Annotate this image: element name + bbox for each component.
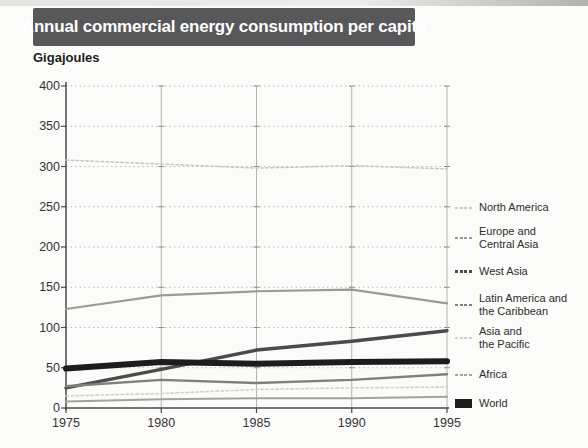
legend-item-europe-and-central-asia: Europe and Central Asia — [455, 225, 587, 251]
y-axis-tick-label-250: 250 — [24, 200, 60, 214]
legend-label-europe-and-central-asia: Europe and Central Asia — [479, 225, 538, 251]
x-axis-tick-label-1975: 1975 — [44, 416, 88, 430]
figure-page: Annual commercial energy consumption per… — [0, 0, 588, 448]
legend-item-world: World — [455, 397, 587, 410]
y-axis-tick-label-150: 150 — [24, 280, 60, 294]
y-axis-tick-label-400: 400 — [24, 79, 60, 93]
x-axis-tick-label-1980: 1980 — [139, 416, 183, 430]
legend-item-north-america: North America — [455, 201, 587, 214]
x-axis-tick-label-1985: 1985 — [235, 416, 279, 430]
legend-item-africa: Africa — [455, 368, 587, 381]
legend-swatch-west-asia — [455, 270, 472, 273]
legend-swatch-north-america — [455, 207, 472, 209]
legend-label-west-asia: West Asia — [479, 265, 528, 278]
legend-item-west-asia: West Asia — [455, 265, 587, 278]
legend-swatch-world — [455, 399, 472, 408]
legend-label-north-america: North America — [479, 201, 549, 214]
y-axis-tick-label-100: 100 — [24, 321, 60, 335]
y-axis-tick-label-300: 300 — [24, 160, 60, 174]
legend-label-africa: Africa — [479, 368, 507, 381]
legend-label-latin-america-and-the-caribbean: Latin America and the Caribbean — [479, 292, 567, 318]
x-axis-tick-label-1990: 1990 — [330, 416, 374, 430]
legend-swatch-asia-and-the-pacific — [455, 337, 472, 339]
y-axis-tick-label-200: 200 — [24, 240, 60, 254]
legend-swatch-latin-america-and-the-caribbean — [455, 304, 472, 306]
y-axis-tick-label-0: 0 — [24, 401, 60, 415]
legend-item-asia-and-the-pacific: Asia and the Pacific — [455, 325, 587, 351]
legend-label-asia-and-the-pacific: Asia and the Pacific — [479, 325, 530, 351]
legend-label-world: World — [479, 397, 508, 410]
y-axis-tick-label-350: 350 — [24, 119, 60, 133]
y-axis-tick-label-50: 50 — [24, 361, 60, 375]
legend-swatch-africa — [455, 374, 472, 376]
legend-item-latin-america-and-the-caribbean: Latin America and the Caribbean — [455, 292, 587, 318]
chart-legend: North AmericaEurope and Central AsiaWest… — [455, 0, 587, 448]
legend-swatch-europe-and-central-asia — [455, 237, 472, 239]
